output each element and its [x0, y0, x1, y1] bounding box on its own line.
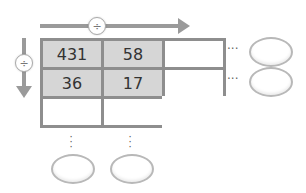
horizontal-arrow-shaft [40, 24, 180, 28]
grid-cell-r1c2: 58 [104, 41, 162, 67]
row2-answer-oval[interactable] [249, 67, 293, 97]
divide-icon: ÷ [19, 57, 28, 70]
col2-ellipsis: ··· [127, 134, 133, 149]
grid-cell-r3c2[interactable] [104, 99, 162, 125]
vertical-arrow-head-icon [16, 86, 32, 98]
row1-answer-oval[interactable] [249, 37, 293, 67]
grid-cell-r1c1: 431 [43, 41, 101, 67]
row1-ellipsis: ··· [227, 42, 238, 56]
col1-answer-oval[interactable] [51, 154, 95, 184]
horizontal-arrow-head-icon [178, 18, 190, 34]
grid-cell-r3c3-absent [162, 96, 226, 128]
grid-cell-r3c1[interactable] [43, 99, 101, 125]
horizontal-divide-operator: ÷ [88, 17, 106, 35]
number-grid: 431 58 36 17 [40, 38, 226, 128]
grid-cell-r2c3[interactable] [165, 70, 223, 96]
col2-answer-oval[interactable] [110, 154, 154, 184]
row2-ellipsis: ··· [227, 72, 238, 86]
divide-icon: ÷ [92, 20, 101, 33]
grid-cell-r2c1: 36 [43, 70, 101, 96]
col1-ellipsis: ··· [68, 134, 74, 149]
vertical-divide-operator: ÷ [15, 54, 33, 72]
grid-cell-r1c3[interactable] [165, 41, 223, 67]
grid-cell-r2c2: 17 [104, 70, 162, 96]
